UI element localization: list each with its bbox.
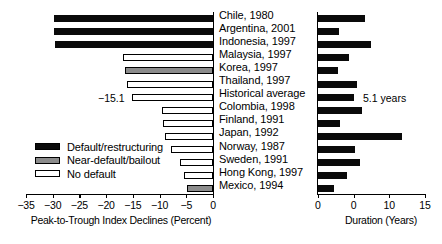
annotation-historical-average-duration: 5.1 years [363,92,406,104]
bar-left-1 [54,28,213,35]
left-panel-x-axis-title: Peak-to-Trough Index Declines (Percent) [21,214,221,226]
left-panel-zero-axis [213,12,214,195]
left-tick-6 [186,194,187,198]
right-panel-y-axis [317,12,318,195]
category-label-0: Chile, 1980 [219,9,274,22]
right-ticklabel-1: 0 [351,199,357,211]
right-panel-x-axis-title: Duration (Years) [326,214,436,226]
category-label-5: Thailand, 1997 [219,74,290,87]
bar-right-7 [318,107,362,114]
bar-right-8 [318,120,340,127]
left-tick-7 [213,194,214,198]
left-ticklabel-7: 0 [210,199,216,211]
legend-item-near-default: Near-default/bailout [35,154,163,168]
legend-label-no-default: No default [67,168,116,180]
bar-left-8 [163,120,213,127]
bar-right-9 [318,133,402,140]
legend-swatch-near-default-icon [35,157,60,164]
right-tick-0 [318,194,319,198]
bar-right-5 [318,81,357,88]
bar-right-4 [318,67,338,74]
bar-left-10 [171,146,213,153]
right-ticklabel-3: 15 [419,199,431,211]
bar-right-1 [318,28,339,35]
bar-left-9 [165,133,213,140]
left-ticklabel-0: −35 [17,199,34,211]
category-label-13: Mexico, 1994 [219,179,283,192]
right-panel-x-axis [317,194,425,195]
right-tick-1 [354,194,355,198]
category-label-2: Indonesia, 1997 [219,35,296,48]
legend-label-near-default: Near-default/bailout [67,154,160,166]
right-ticklabel-2: 10 [383,199,395,211]
category-label-1: Argentina, 2001 [219,22,295,35]
bar-right-10 [318,146,355,153]
category-label-9: Japan, 1992 [219,126,278,139]
category-label-6: Historical average [219,87,305,100]
bar-left-4 [125,67,213,74]
left-ticklabel-3: −20 [97,199,114,211]
legend-swatch-default-icon [35,143,60,150]
bar-left-13 [187,185,213,192]
annotation-historical-average-decline: −15.1 [98,92,125,104]
bar-left-11 [180,159,213,166]
legend-swatch-no-default-icon [35,170,60,177]
legend-item-no-default: No default [35,167,163,181]
bar-right-11 [318,159,360,166]
category-label-11: Sweden, 1991 [219,153,288,166]
bar-right-6 [318,94,354,101]
legend-item-default: Default/restructuring [35,140,163,154]
legend-label-default: Default/restructuring [67,141,163,153]
chart-figure: −35 −30 −25 −20 −15 −10 −5 0 Peak-to-Tro… [0,0,442,244]
left-ticklabel-6: −5 [181,199,193,211]
category-label-7: Colombia, 1998 [219,100,295,113]
left-ticklabel-5: −10 [151,199,168,211]
left-tick-5 [160,194,161,198]
left-tick-0 [26,194,27,198]
category-label-10: Norway, 1987 [219,140,285,153]
category-label-3: Malaysia, 1997 [219,48,292,61]
left-tick-4 [133,194,134,198]
bar-left-12 [184,172,213,179]
left-tick-3 [106,194,107,198]
bar-right-2 [318,41,371,48]
bar-left-5 [127,81,213,88]
bar-right-3 [318,54,349,61]
category-label-8: Finland, 1991 [219,113,284,126]
bar-left-6 [132,94,213,101]
category-label-4: Korea, 1997 [219,61,278,74]
bar-right-13 [318,185,334,192]
bar-right-12 [318,172,347,179]
right-ticklabel-0: 0 [315,199,321,211]
bar-left-7 [162,107,213,114]
bar-left-0 [54,15,213,22]
category-label-12: Hong Kong, 1997 [219,166,303,179]
right-tick-3 [425,194,426,198]
bar-left-3 [123,54,213,61]
right-tick-2 [389,194,390,198]
left-tick-2 [79,194,80,198]
bar-right-0 [318,15,365,22]
legend: Default/restructuring Near-default/bailo… [35,140,163,181]
left-tick-1 [53,194,54,198]
left-ticklabel-1: −30 [44,199,61,211]
bar-left-2 [55,41,213,48]
left-ticklabel-4: −15 [124,199,141,211]
left-ticklabel-2: −25 [71,199,88,211]
